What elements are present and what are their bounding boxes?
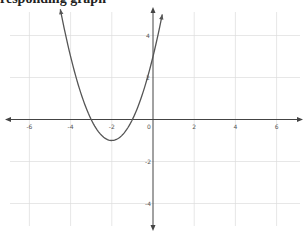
x-tick-label: 6 xyxy=(275,123,279,130)
y-axis-down-arrow-icon xyxy=(151,225,156,231)
x-tick-label: 0 xyxy=(147,123,151,130)
parabola-curve xyxy=(59,9,163,140)
x-tick-label: 4 xyxy=(233,123,237,130)
x-axis-left-arrow-icon xyxy=(5,117,11,122)
x-axis-right-arrow-icon xyxy=(297,117,303,122)
curve-left-arrow-icon xyxy=(59,9,63,14)
axes xyxy=(5,7,303,231)
y-tick-label: -4 xyxy=(145,200,151,207)
x-tick-label: -4 xyxy=(68,123,74,130)
curve-right-arrow-icon xyxy=(159,14,163,19)
x-tick-label: 2 xyxy=(192,123,196,130)
coordinate-plane: -6-4-2024642-2-4 xyxy=(0,0,305,236)
y-tick-label: 4 xyxy=(146,32,150,39)
y-axis-up-arrow-icon xyxy=(151,7,156,13)
x-tick-label: -2 xyxy=(109,123,115,130)
x-tick-label: -6 xyxy=(26,123,32,130)
y-tick-label: -2 xyxy=(145,158,151,165)
